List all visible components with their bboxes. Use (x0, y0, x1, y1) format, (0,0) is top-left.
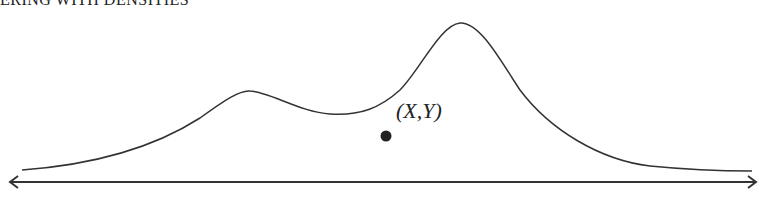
sample-point (381, 131, 392, 142)
density-diagram (0, 0, 768, 200)
point-label: (X,Y) (396, 98, 442, 124)
density-curve (22, 23, 752, 171)
